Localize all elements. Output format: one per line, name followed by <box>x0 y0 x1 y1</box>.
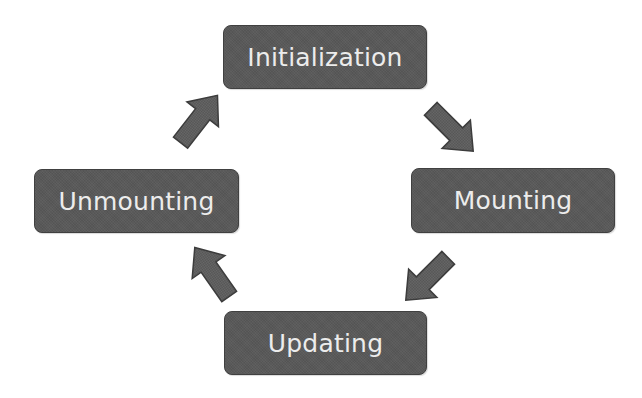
arrow-initialization-to-mounting-icon <box>417 95 488 166</box>
node-mounting: Mounting <box>411 168 615 233</box>
arrow-mounting-to-updating-icon <box>392 244 463 315</box>
node-label: Updating <box>268 329 383 358</box>
node-unmounting: Unmounting <box>34 169 239 233</box>
node-label: Unmounting <box>59 187 215 216</box>
lifecycle-diagram: Initialization Mounting Updating Unmount… <box>0 0 642 398</box>
node-updating: Updating <box>224 311 427 375</box>
arrow-updating-to-unmounting-icon <box>178 236 245 308</box>
node-label: Initialization <box>247 43 402 72</box>
arrow-unmounting-to-initialization-icon <box>165 83 233 155</box>
node-label: Mounting <box>454 186 573 215</box>
node-initialization: Initialization <box>223 25 427 89</box>
